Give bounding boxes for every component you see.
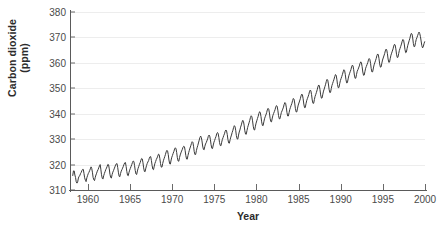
x-tick-label: 1980 — [245, 190, 267, 205]
y-axis-title-line2: (ppm) — [18, 0, 30, 138]
y-tick-label: 330 — [49, 134, 71, 145]
y-axis-title-line1: Carbon dioxide — [6, 19, 18, 97]
plot-area: 310320330340350360370380 196019651970197… — [71, 12, 425, 190]
x-tick-label: 1990 — [330, 190, 352, 205]
x-tick-label: 2000 — [414, 190, 436, 205]
co2-chart-figure: Carbon dioxide (ppm) Year 31032033034035… — [0, 0, 442, 231]
x-tick-label: 1985 — [287, 190, 309, 205]
y-tick-label: 380 — [49, 7, 71, 18]
x-tick-label: 1995 — [372, 190, 394, 205]
y-tick-label: 360 — [49, 57, 71, 68]
y-tick-label: 310 — [49, 185, 71, 196]
y-tick-label: 370 — [49, 32, 71, 43]
y-tick-label: 320 — [49, 159, 71, 170]
y-tick-label: 350 — [49, 83, 71, 94]
y-axis-title: Carbon dioxide (ppm) — [6, 0, 30, 138]
x-tick-label: 1965 — [119, 190, 141, 205]
co2-line-series — [71, 12, 425, 190]
x-axis-line — [69, 190, 427, 191]
x-tick-label: 1975 — [203, 190, 225, 205]
x-axis-title: Year — [71, 210, 425, 222]
x-tick-label: 1970 — [161, 190, 183, 205]
co2-polyline — [73, 32, 425, 183]
x-tick-label: 1960 — [77, 190, 99, 205]
y-tick-label: 340 — [49, 108, 71, 119]
